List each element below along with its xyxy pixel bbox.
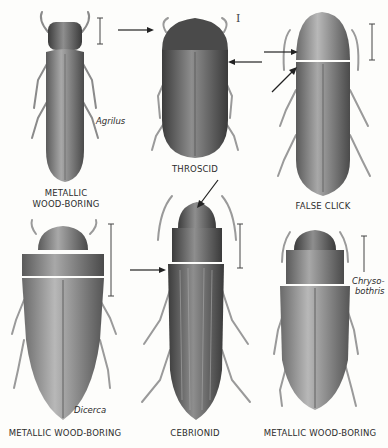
genus-line: Chryso- bbox=[352, 276, 385, 286]
common-name-label-5: CEBRIONID bbox=[150, 428, 240, 439]
beetle-false-click bbox=[278, 12, 370, 196]
beetle-dicerca bbox=[12, 220, 116, 420]
common-name-line: WOOD-BORING bbox=[14, 199, 118, 210]
beetle-chrysobothris bbox=[274, 230, 358, 410]
genus-label-chrysobothris: Chryso- bothris bbox=[352, 276, 385, 296]
beetle-plate: I bbox=[0, 0, 388, 448]
common-name-label-6: METALLIC WOOD-BORING bbox=[254, 428, 386, 439]
common-name-label-2: THROSCID bbox=[150, 164, 240, 175]
common-name-label-4: METALLIC WOOD-BORING bbox=[2, 428, 128, 439]
beetle-agrilus bbox=[32, 12, 98, 182]
genus-line: bothris bbox=[352, 286, 385, 296]
beetle-cebrionid bbox=[142, 196, 250, 420]
beetle-throscid bbox=[152, 18, 238, 158]
genus-label-dicerca: Dicerca bbox=[74, 405, 106, 415]
common-name-label-1: METALLIC WOOD-BORING bbox=[14, 188, 118, 210]
common-name-label-3: FALSE CLICK bbox=[278, 201, 368, 212]
genus-label-agrilus: Agrilus bbox=[96, 116, 125, 126]
beetle-illustrations: I bbox=[0, 0, 388, 448]
svg-text:I: I bbox=[236, 12, 240, 25]
common-name-line: METALLIC bbox=[14, 188, 118, 199]
